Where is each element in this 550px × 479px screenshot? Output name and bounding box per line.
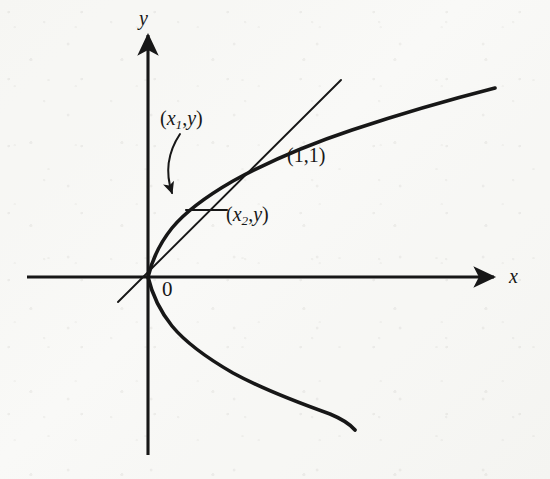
x1y-variable-y: y [187, 107, 196, 129]
x2y-variable-y: y [253, 203, 262, 225]
annotation-arrow-x1y [168, 134, 180, 193]
point-label-x1y: (x1,y) [160, 108, 203, 131]
x1y-variable-x: x [167, 107, 176, 129]
x2y-open-paren: ( [226, 203, 233, 225]
x1y-open-paren: ( [160, 107, 167, 129]
origin-label: 0 [162, 279, 173, 300]
point-label-1-1: (1,1) [287, 145, 325, 165]
math-figure: y x 0 (x1,y) (x2,y) (1,1) [0, 0, 550, 479]
y-axis-label: y [139, 8, 148, 28]
x2y-close-paren: ) [262, 203, 269, 225]
curve-lower-branch [148, 277, 355, 430]
x-axis-label: x [509, 266, 518, 286]
x2y-variable-x: x [233, 203, 242, 225]
x1y-close-paren: ) [196, 107, 203, 129]
figure-canvas [0, 0, 550, 479]
point-label-x2y: (x2,y) [226, 204, 269, 227]
